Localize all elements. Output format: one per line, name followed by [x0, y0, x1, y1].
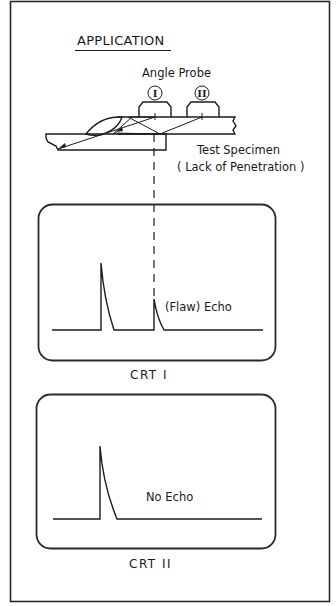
crt-ii-caption: CRT II: [129, 557, 172, 571]
crt-ii-screen: No Echo: [37, 395, 276, 549]
crt-ii-trace: [53, 446, 262, 519]
crt-ii-echo-label: No Echo: [146, 490, 193, 504]
upper-plate: [117, 117, 236, 134]
probe-ii-body: [187, 102, 219, 117]
diagram-title: APPLICATION: [77, 33, 165, 48]
probe-ii: II: [187, 86, 219, 117]
beam-probe-ii: [160, 117, 202, 134]
crt-i-caption: CRT I: [130, 368, 168, 382]
title-group: APPLICATION: [75, 33, 171, 51]
lack-of-penetration-label: ( Lack of Penetration ): [177, 160, 304, 174]
ultrasonic-application-diagram: APPLICATION Angle Probe I II: [0, 0, 336, 606]
probe-i: I: [139, 86, 171, 117]
crt-i-echo-label: (Flaw) Echo: [165, 300, 232, 314]
test-specimen-label: Test Specimen: [196, 143, 280, 157]
crt-i-screen: (Flaw) Echo: [39, 205, 276, 361]
crt-ii-frame: [37, 395, 276, 549]
lower-plate: [46, 134, 166, 150]
angle-probe-label: Angle Probe: [142, 66, 211, 80]
crt-i-trace: [52, 263, 263, 330]
probe-ii-label: II: [197, 88, 207, 99]
beam-probe-i-direct: [58, 117, 155, 149]
probe-i-label: I: [153, 88, 158, 99]
crt-i-frame: [39, 205, 276, 361]
